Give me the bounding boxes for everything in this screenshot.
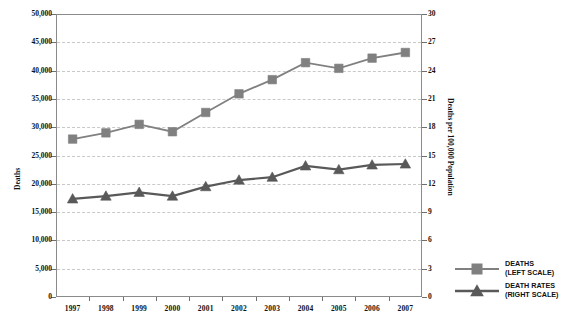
y-tick-right [422,240,427,241]
x-tick [389,297,390,301]
x-tick [256,297,257,301]
legend-label-line1: DEATH RATES [505,281,559,290]
y-axis-right-title: Deaths per 100,000 Population [446,98,455,196]
y-tick-right [422,269,427,270]
x-tick [123,297,124,301]
legend-item[interactable]: DEATH RATES(RIGHT SCALE) [455,280,567,302]
y-tick-label-left: 35,000 [0,94,52,103]
y-tick-label-left: 40,000 [0,66,52,75]
y-tick-right [422,71,427,72]
plot-area [56,14,422,297]
chart-root: 05,00010,00015,00020,00025,00030,00035,0… [0,0,568,322]
gridline [57,269,421,270]
y-tick-right [422,42,427,43]
y-tick-label-left: 10,000 [0,235,52,244]
x-tick [289,297,290,301]
x-tick [355,297,356,301]
gridline [57,156,421,157]
legend-label: DEATHS(LEFT SCALE) [505,259,554,277]
y-tick-label-left: 15,000 [0,207,52,216]
y-tick-right [422,184,427,185]
y-tick-right [422,212,427,213]
gridline [57,127,421,128]
gridline [57,99,421,100]
y-tick-label-right: 24 [428,66,450,75]
legend-label-line2: (RIGHT SCALE) [505,290,559,299]
y-tick-label-left: 25,000 [0,151,52,160]
y-tick-right [422,127,427,128]
y-tick-label-left: 20,000 [0,179,52,188]
x-tick [322,297,323,301]
y-tick-label-left: 0 [0,292,52,301]
y-tick-right [422,297,427,298]
y-tick-label-right: 3 [428,264,450,273]
x-tick [156,297,157,301]
y-tick-label-right: 6 [428,235,450,244]
legend-triangle-icon [455,284,499,298]
y-tick-label-left: 5,000 [0,264,52,273]
x-tick-label: 2007 [385,304,425,313]
y-axis-left-title: Deaths [13,168,22,190]
y-tick-label-right: 27 [428,37,450,46]
y-tick-label-right: 30 [428,9,450,18]
y-tick-label-left: 30,000 [0,122,52,131]
y-tick-label-left: 50,000 [0,9,52,18]
legend-square-icon [455,262,499,276]
x-tick [89,297,90,301]
gridline [57,42,421,43]
gridline [57,212,421,213]
y-tick-label-right: 0 [428,292,450,301]
x-tick [189,297,190,301]
chart-legend: DEATHS(LEFT SCALE)DEATH RATES(RIGHT SCAL… [455,258,567,302]
legend-label: DEATH RATES(RIGHT SCALE) [505,281,559,299]
gridline [57,240,421,241]
legend-label-line2: (LEFT SCALE) [505,268,554,277]
y-tick-label-left: 45,000 [0,37,52,46]
y-tick-right [422,99,427,100]
gridline [57,184,421,185]
legend-item[interactable]: DEATHS(LEFT SCALE) [455,258,567,280]
x-tick [222,297,223,301]
y-tick-right [422,156,427,157]
y-tick-right [422,14,427,15]
y-tick-label-right: 9 [428,207,450,216]
gridline [57,71,421,72]
legend-label-line1: DEATHS [505,259,554,268]
